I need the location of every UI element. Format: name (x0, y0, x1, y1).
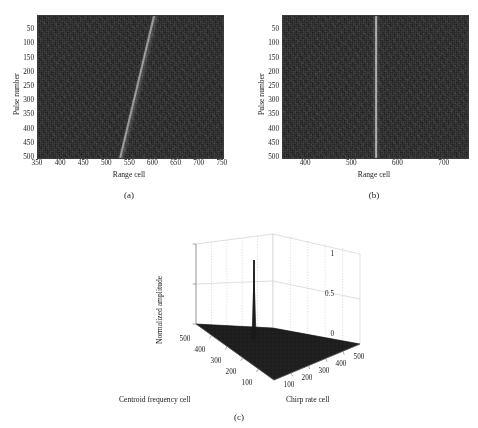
panel-b-xtick: 400 (300, 159, 311, 167)
panel-a-yaxis-label: Pulse number (12, 73, 21, 115)
panel-b-ytick: 450 (261, 139, 279, 147)
panel-c-xtick: 300 (211, 357, 222, 365)
panel-a-xtick: 500 (101, 159, 112, 167)
panel-b-xtick: 700 (438, 159, 449, 167)
panel-a-caption: (a) (124, 190, 134, 200)
panel-c-xtick: 500 (180, 335, 191, 343)
panel-a-ytick: 400 (16, 125, 34, 133)
panel-b-ytick: 500 (261, 153, 279, 161)
panel-c-xtick: 200 (226, 368, 237, 376)
panel-c-caption: (c) (234, 412, 244, 422)
panel-a-xtick: 550 (124, 159, 135, 167)
panel-c-ytick: 100 (284, 381, 295, 389)
panel-b-plot-area (282, 15, 469, 159)
panel-c-ytick: 200 (302, 374, 313, 382)
noise-field-overlay (38, 16, 223, 158)
panel-c-xtick: 100 (242, 379, 253, 387)
target-trace (375, 16, 377, 158)
panel-c-ztick: 0 (320, 330, 334, 338)
panel-c-ztick: 1 (320, 250, 334, 258)
panel-a-xtick: 650 (170, 159, 181, 167)
panel-c-xtick: 400 (195, 346, 206, 354)
panel-a-ytick: 450 (16, 139, 34, 147)
panel-b-xtick: 500 (346, 159, 357, 167)
panel-c-ztick: 0.5 (314, 290, 334, 298)
panel-b-xaxis-label: Range cell (358, 170, 390, 179)
panel-a-xtick: 700 (193, 159, 204, 167)
panel-a-xtick: 450 (78, 159, 89, 167)
panel-b-ytick: 100 (261, 39, 279, 47)
panel-a-xaxis-label: Range cell (113, 170, 145, 179)
panel-b-ytick: 150 (261, 54, 279, 62)
panel-b-xtick: 600 (392, 159, 403, 167)
panel-a-xtick: 750 (216, 159, 227, 167)
panel-a-xtick: 350 (32, 159, 43, 167)
panel-b-yaxis-label: Pulse number (257, 73, 266, 115)
panel-c-yaxis-label: Chirp rate cell (286, 395, 329, 404)
panel-b: 50 100 150 200 250 300 350 400 450 500 4… (239, 0, 478, 210)
panel-a-ytick: 150 (16, 54, 34, 62)
panel-a-ytick: 50 (16, 25, 34, 33)
panel-c-ytick: 300 (319, 367, 330, 375)
panel-c-ytick: 500 (354, 353, 365, 361)
panel-c-ytick: 400 (336, 360, 347, 368)
panel-c: 1 0.5 0 500 400 300 200 100 100 200 300 … (0, 222, 478, 428)
panel-a-plot-area (37, 15, 224, 159)
panel-a-ytick: 100 (16, 39, 34, 47)
panel-c-zaxis-label: Normalized amplitude (155, 276, 164, 344)
panel-a: 50 100 150 200 250 300 350 400 450 500 3… (0, 0, 239, 210)
panel-b-ytick: 400 (261, 125, 279, 133)
panel-a-xtick: 600 (147, 159, 158, 167)
figure-container: 50 100 150 200 250 300 350 400 450 500 3… (0, 0, 478, 428)
panel-a-xtick: 400 (55, 159, 66, 167)
panel-b-ytick: 50 (261, 25, 279, 33)
panel-b-caption: (b) (369, 190, 380, 200)
panel-c-xaxis-label: Centroid frequency cell (119, 395, 191, 404)
